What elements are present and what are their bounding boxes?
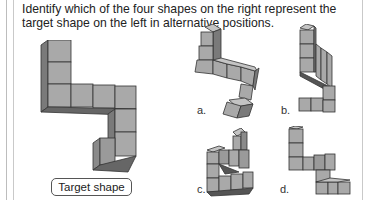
option-a-label: a. [197, 104, 206, 116]
option-c-label: c. [197, 183, 206, 195]
option-b-shape-icon [296, 24, 356, 114]
option-c-shape-icon [205, 128, 265, 198]
option-d-shape-icon [285, 126, 360, 196]
frame-border-left [6, 0, 7, 200]
frame-border-inner-left [13, 0, 14, 200]
frame-border-right [362, 0, 363, 200]
target-shape-label: Target shape [51, 178, 132, 196]
option-b-label: b. [281, 104, 290, 116]
target-shape-icon [38, 40, 138, 175]
option-d-label: d. [280, 183, 289, 195]
